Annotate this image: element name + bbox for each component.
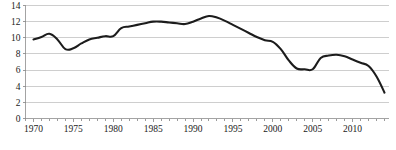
x-tick-label: 1990 — [184, 124, 203, 134]
y-tick-label: 0 — [16, 114, 21, 124]
data-series-line — [33, 16, 384, 93]
y-tick-label: 12 — [11, 17, 21, 27]
y-axis-tick-labels: 02468101214 — [11, 1, 21, 124]
y-tick-label: 14 — [11, 1, 21, 11]
line-chart-figure: 02468101214 1970197519801985199019952000… — [0, 0, 396, 150]
x-tick-label: 1975 — [64, 124, 83, 134]
x-tick-label: 2005 — [303, 124, 322, 134]
y-tick-label: 6 — [16, 65, 21, 75]
y-tick-label: 2 — [16, 98, 21, 108]
x-tick-label: 1980 — [104, 124, 123, 134]
x-tick-label: 1995 — [223, 124, 242, 134]
y-tick-label: 8 — [16, 49, 21, 59]
chart-plot-area: 02468101214 1970197519801985199019952000… — [0, 0, 396, 150]
x-tick-label: 1985 — [144, 124, 163, 134]
page-edge-artifact — [2, 142, 182, 149]
y-tick-label: 4 — [16, 82, 21, 92]
y-tick-label: 10 — [11, 33, 21, 43]
x-tick-label: 1970 — [24, 124, 43, 134]
axis-tick-marks — [23, 6, 385, 123]
x-tick-label: 2000 — [263, 124, 282, 134]
x-axis-tick-labels: 197019751980198519901995200020052010 — [24, 124, 362, 134]
x-tick-label: 2010 — [343, 124, 362, 134]
